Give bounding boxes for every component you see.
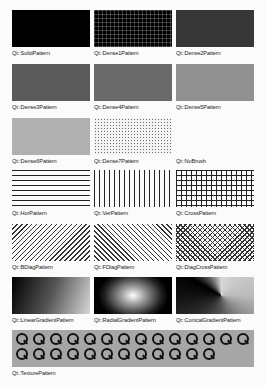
qt-logo-icon xyxy=(203,348,215,360)
dense1-swatch xyxy=(94,10,172,47)
qt-logo-icon xyxy=(67,348,79,360)
linear-swatch xyxy=(12,277,90,314)
pattern-cell-dense4: Qt::Dense4Pattern xyxy=(94,64,173,110)
cross-swatch xyxy=(176,170,254,207)
ver-swatch xyxy=(94,170,172,207)
nobrush-swatch xyxy=(176,118,254,155)
dense6-swatch xyxy=(12,118,90,155)
qt-logo-icon xyxy=(135,348,147,360)
pattern-cell-dense5: Qt::Dense5Pattern xyxy=(176,64,255,110)
dense2-swatch xyxy=(176,10,254,47)
pattern-cell-bdiag: Qt::BDiagPattern xyxy=(12,224,91,270)
pattern-label: Qt::Dense4Pattern xyxy=(94,104,173,110)
pattern-label: Qt::FDiagPattern xyxy=(94,264,173,270)
pattern-label: Qt::HorPattern xyxy=(12,210,91,216)
pattern-cell-texture: Qt::TexturePattern xyxy=(12,330,254,376)
pattern-cell-cross: Qt::CrossPattern xyxy=(176,170,255,216)
bdiag-swatch xyxy=(12,224,90,261)
qt-logo-icon xyxy=(186,348,198,360)
qt-logo-icon xyxy=(186,333,198,345)
pattern-label: Qt::Dense6Pattern xyxy=(12,158,91,164)
pattern-label: Qt::LinearGradientPattern xyxy=(12,317,91,323)
dense7-swatch xyxy=(94,118,172,155)
qt-logo-icon xyxy=(84,348,96,360)
qt-logo-icon xyxy=(220,333,232,345)
qt-logo-icon xyxy=(135,333,147,345)
pattern-cell-dense3: Qt::Dense3Pattern xyxy=(12,64,91,110)
pattern-label: Qt::CrossPattern xyxy=(176,210,255,216)
pattern-cell-diagcross: Qt::DiagCrossPattern xyxy=(176,224,255,270)
conical-swatch xyxy=(176,277,254,314)
pattern-cell-dense6: Qt::Dense6Pattern xyxy=(12,118,91,164)
qt-logo-icon xyxy=(118,348,130,360)
pattern-label: Qt::BDiagPattern xyxy=(12,264,91,270)
qt-logo-icon xyxy=(50,348,62,360)
qt-logo-icon xyxy=(101,348,113,360)
solid-swatch xyxy=(12,10,90,47)
pattern-label: Qt::VerPattern xyxy=(94,210,173,216)
qt-logo-icon xyxy=(203,333,215,345)
qt-logo-icon xyxy=(33,348,45,360)
pattern-label: Qt::SolidPattern xyxy=(12,50,91,56)
dense3-swatch xyxy=(12,64,90,101)
qt-logo-icon xyxy=(67,333,79,345)
pattern-cell-dense2: Qt::Dense2Pattern xyxy=(176,10,255,56)
qt-logo-icon xyxy=(33,333,45,345)
pattern-cell-hor: Qt::HorPattern xyxy=(12,170,91,216)
pattern-cell-conical: Qt::ConicalGradientPattern xyxy=(176,277,255,323)
qt-logo-icon xyxy=(101,333,113,345)
fdiag-swatch xyxy=(94,224,172,261)
pattern-cell-nobrush: Qt::NoBrush xyxy=(176,118,255,164)
hor-swatch xyxy=(12,170,90,207)
qt-logo-icon xyxy=(169,333,181,345)
radial-swatch xyxy=(94,277,172,314)
pattern-label: Qt::Dense5Pattern xyxy=(176,104,255,110)
qt-logo-icon xyxy=(16,333,28,345)
qt-logo-icon xyxy=(16,348,28,360)
pattern-cell-dense1: Qt::Dense1Pattern xyxy=(94,10,173,56)
diagcross-swatch xyxy=(176,224,254,261)
pattern-cell-solid: Qt::SolidPattern xyxy=(12,10,91,56)
qt-logo-icon xyxy=(118,333,130,345)
qt-logo-icon xyxy=(152,348,164,360)
pattern-label: Qt::Dense2Pattern xyxy=(176,50,255,56)
pattern-label: Qt::Dense7Pattern xyxy=(94,158,173,164)
pattern-cell-dense7: Qt::Dense7Pattern xyxy=(94,118,173,164)
pattern-label: Qt::NoBrush xyxy=(176,158,255,164)
qt-logo-icon xyxy=(50,333,62,345)
pattern-label: Qt::TexturePattern xyxy=(12,370,254,376)
pattern-cell-ver: Qt::VerPattern xyxy=(94,170,173,216)
dense5-swatch xyxy=(176,64,254,101)
pattern-cell-fdiag: Qt::FDiagPattern xyxy=(94,224,173,270)
dense4-swatch xyxy=(94,64,172,101)
qt-logo-icon xyxy=(152,333,164,345)
pattern-label: Qt::Dense3Pattern xyxy=(12,104,91,110)
texture-swatch xyxy=(12,330,254,367)
pattern-label: Qt::DiagCrossPattern xyxy=(176,264,255,270)
pattern-cell-radial: Qt::RadialGradientPattern xyxy=(94,277,173,323)
pattern-label: Qt::ConicalGradientPattern xyxy=(176,317,255,323)
qt-logo-icon xyxy=(84,333,96,345)
qt-logo-icon xyxy=(169,348,181,360)
pattern-label: Qt::RadialGradientPattern xyxy=(94,317,173,323)
qt-logo-icon xyxy=(237,333,249,345)
pattern-cell-linear: Qt::LinearGradientPattern xyxy=(12,277,91,323)
pattern-label: Qt::Dense1Pattern xyxy=(94,50,173,56)
